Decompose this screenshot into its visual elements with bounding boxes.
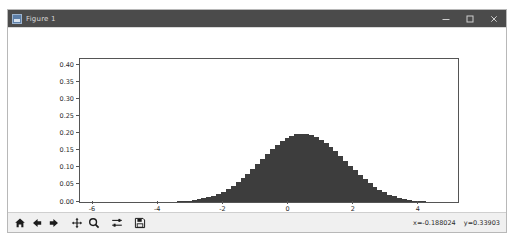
figure-canvas[interactable]: 0.000.050.100.150.200.250.300.350.40 -6-… [8, 27, 506, 212]
x-tick-mark [417, 201, 418, 204]
home-icon[interactable] [12, 215, 28, 231]
magnifier-icon[interactable] [86, 215, 102, 231]
toolbar-separator [125, 215, 131, 231]
navigation-toolbar: x=-0.188024 y=0.33903 [8, 212, 506, 232]
coordinate-readout: x=-0.188024 y=0.33903 [407, 219, 500, 227]
y-tick-label: 0.00 [60, 198, 74, 206]
figure-icon [12, 14, 22, 24]
y-tick-label: 0.05 [60, 180, 74, 188]
y-tick-mark [76, 183, 79, 184]
coord-x: x=-0.188024 [413, 219, 456, 227]
plot-axes[interactable] [79, 58, 459, 203]
toolbar-separator [62, 215, 68, 231]
y-tick-mark [76, 81, 79, 82]
y-tick-mark [76, 149, 79, 150]
histogram-bars [143, 59, 436, 202]
coord-y: y=0.33903 [464, 219, 500, 227]
y-tick-label: 0.25 [60, 112, 74, 120]
arrow-left-icon[interactable] [29, 215, 45, 231]
y-tick-label: 0.30 [60, 95, 74, 103]
maximize-icon[interactable] [458, 10, 482, 27]
screenshot-root: Figure 1 0.000.050.100.150.200.250.300.3… [0, 0, 514, 239]
toolbar-separator [102, 215, 108, 231]
move-cross-icon[interactable] [69, 215, 85, 231]
y-tick-label: 0.10 [60, 163, 74, 171]
window-titlebar[interactable]: Figure 1 [8, 10, 506, 27]
sliders-icon[interactable] [109, 215, 125, 231]
y-tick-label: 0.40 [60, 61, 74, 69]
x-tick-mark [92, 201, 93, 204]
close-icon[interactable] [482, 10, 506, 27]
arrow-right-icon[interactable] [46, 215, 62, 231]
y-tick-mark [76, 64, 79, 65]
window-controls [434, 10, 506, 27]
figure-window: Figure 1 0.000.050.100.150.200.250.300.3… [7, 9, 507, 233]
window-title: Figure 1 [26, 15, 56, 23]
floppy-disk-icon[interactable] [132, 215, 148, 231]
minimize-icon[interactable] [434, 10, 458, 27]
y-tick-label: 0.35 [60, 78, 74, 86]
y-tick-mark [76, 115, 79, 116]
x-tick-mark [222, 201, 223, 204]
y-tick-mark [76, 201, 79, 202]
y-tick-label: 0.15 [60, 146, 74, 154]
x-tick-mark [352, 201, 353, 204]
y-tick-mark [76, 98, 79, 99]
x-tick-mark [157, 201, 158, 204]
y-tick-mark [76, 166, 79, 167]
x-tick-mark [287, 201, 288, 204]
y-tick-label: 0.20 [60, 129, 74, 137]
y-tick-mark [76, 132, 79, 133]
